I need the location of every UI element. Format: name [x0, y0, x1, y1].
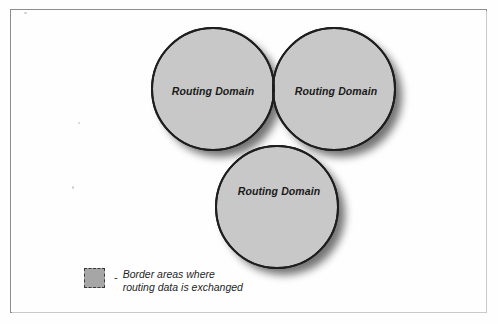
routing-domain-label-right: Routing Domain: [295, 85, 377, 97]
figure-canvas: Routing Domain Routing Domain Routing Do…: [0, 0, 498, 324]
legend-separator-dash: -: [114, 266, 118, 288]
legend-text: Border areas where routing data is excha…: [123, 266, 243, 293]
routing-domain-label-bottom: Routing Domain: [238, 185, 320, 197]
legend-text-line1: Border areas where: [123, 268, 243, 281]
legend: - Border areas where routing data is exc…: [84, 266, 243, 293]
venn-diagram: [0, 0, 498, 324]
legend-text-line2: routing data is exchanged: [123, 281, 243, 294]
routing-domain-label-left: Routing Domain: [172, 85, 254, 97]
legend-swatch-border-area: [84, 268, 105, 288]
circle-group: [152, 28, 395, 268]
